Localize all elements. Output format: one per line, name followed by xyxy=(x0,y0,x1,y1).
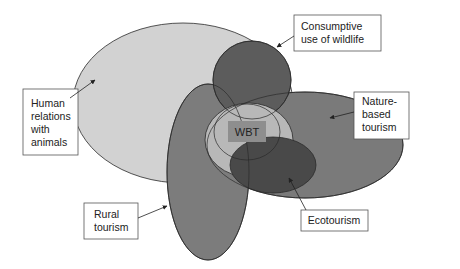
arrow-consumptive-use xyxy=(277,36,294,47)
label-line: Human xyxy=(31,97,65,109)
label-line: with xyxy=(30,123,50,135)
label-consumptive-use: Consumptive use of wildlife xyxy=(277,15,381,51)
label-line: tourism xyxy=(362,121,397,133)
label-line: relations xyxy=(31,110,71,122)
label-line: Rural xyxy=(94,208,119,220)
diagram-canvas: WBT Human relations with animals Consump… xyxy=(0,0,460,269)
label-line: based xyxy=(362,108,391,120)
label-line: animals xyxy=(31,136,67,148)
label-line: Ecotourism xyxy=(308,214,361,226)
label-line: tourism xyxy=(94,221,129,233)
label-line: use of wildlife xyxy=(301,33,364,45)
label-line: Consumptive xyxy=(301,20,362,32)
label-rural-tourism: Rural tourism xyxy=(84,203,167,239)
arrow-rural-tourism xyxy=(138,206,167,218)
ecotourism-ellipse xyxy=(230,137,316,193)
label-line: Nature- xyxy=(362,95,398,107)
wbt-label: WBT xyxy=(235,126,260,138)
